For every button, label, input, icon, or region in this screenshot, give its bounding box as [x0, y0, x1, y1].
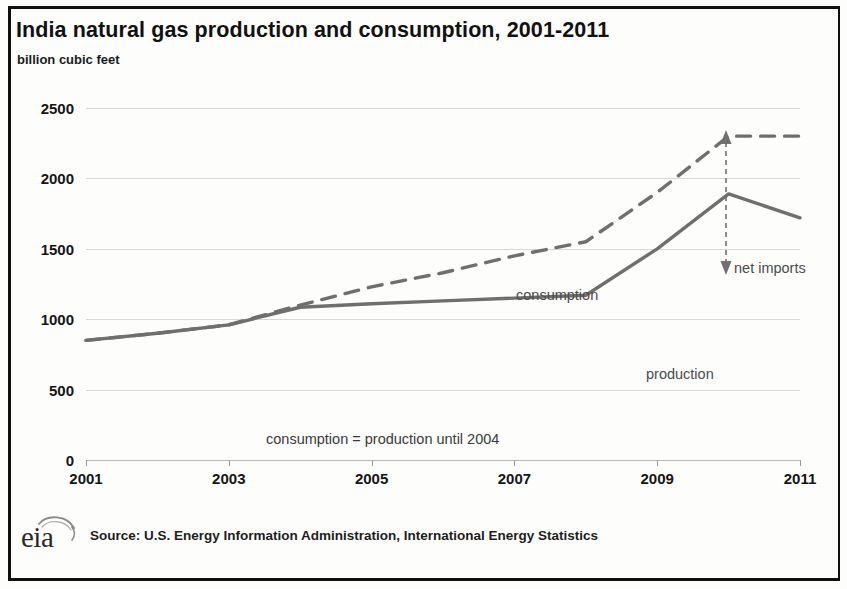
chart-figure: India natural gas production and consump…: [0, 0, 847, 589]
annotation-equality-note: consumption = production until 2004: [266, 431, 499, 447]
x-axis-tick-mark: [800, 460, 801, 466]
x-axis-tick-label: 2011: [784, 470, 817, 487]
x-axis-tick-mark: [86, 460, 87, 466]
eia-logo-text: eia: [21, 521, 53, 554]
frame-border-left: [8, 6, 11, 581]
annotation-production: production: [646, 366, 714, 382]
eia-logo-icon: eia: [20, 512, 82, 554]
frame-border-bottom: [8, 578, 840, 581]
series-line-consumption: [86, 136, 800, 340]
x-axis-tick-mark: [229, 460, 230, 466]
annotation-net-imports: net imports: [734, 260, 806, 276]
x-axis-tick-label: 2003: [212, 470, 245, 487]
plot-area: 05001000150020002500 2001200320052007200…: [86, 108, 800, 460]
series-line-production: [86, 194, 800, 340]
chart-axis-units-label: billion cubic feet: [17, 52, 120, 67]
series-lines: [86, 108, 800, 460]
gridline: [86, 460, 800, 461]
frame-border-top: [8, 6, 840, 9]
x-axis-tick-label: 2009: [641, 470, 674, 487]
frame-border-right: [838, 6, 840, 581]
chart-footer: eia Source: U.S. Energy Information Admi…: [20, 512, 598, 554]
y-axis-tick-label: 0: [66, 452, 74, 469]
source-attribution: Source: U.S. Energy Information Administ…: [90, 528, 598, 543]
y-axis-tick-label: 2000: [41, 170, 74, 187]
x-axis-tick-mark: [657, 460, 658, 466]
x-axis-tick-label: 2005: [355, 470, 388, 487]
net-imports-arrow: [721, 130, 732, 275]
annotation-consumption: consumption: [516, 287, 598, 303]
y-axis-tick-label: 500: [49, 381, 74, 398]
y-axis-tick-label: 1500: [41, 240, 74, 257]
chart-title: India natural gas production and consump…: [16, 18, 609, 43]
x-axis-tick-mark: [514, 460, 515, 466]
y-axis-tick-label: 1000: [41, 311, 74, 328]
x-axis-tick-mark: [372, 460, 373, 466]
x-axis-tick-label: 2007: [498, 470, 531, 487]
y-axis-tick-label: 2500: [41, 100, 74, 117]
x-axis-tick-label: 2001: [69, 470, 102, 487]
